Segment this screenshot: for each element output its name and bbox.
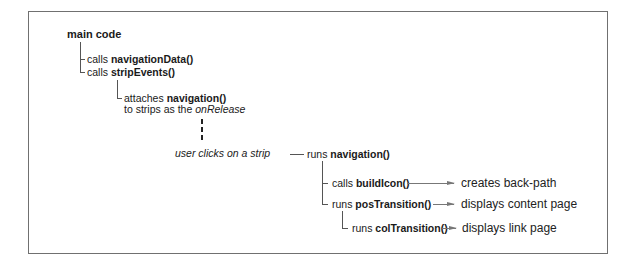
function-name: navigation() — [330, 148, 390, 160]
result-pos-transition: displays content page — [461, 197, 577, 211]
node-user-click: user clicks on a strip — [175, 147, 270, 159]
dash-segment — [201, 119, 203, 124]
tree-branch-attach — [117, 98, 122, 99]
node-col-transition: runs colTransition() — [352, 222, 448, 234]
verb-label: calls — [87, 53, 108, 65]
tree-line-main — [80, 42, 81, 72]
event-label: user clicks on a strip — [175, 147, 270, 159]
verb-label: calls — [332, 177, 353, 189]
result-build-icon: creates back-path — [461, 176, 556, 190]
tree-line-stripevents — [117, 80, 118, 98]
tree-branch-navdata — [80, 59, 85, 60]
dash-segment — [201, 135, 203, 140]
tree-branch-coltransition — [342, 228, 348, 229]
tree-branch-buildicon — [322, 183, 328, 184]
result-col-transition: displays link page — [462, 221, 557, 235]
node-build-icon: calls buildIcon() — [332, 177, 410, 189]
tree-line-postransition — [342, 211, 343, 228]
node-attach-line2: to strips as the onRelease — [124, 103, 245, 115]
verb-label: calls — [87, 66, 108, 78]
dash-segment — [201, 127, 203, 132]
connector-line — [290, 154, 304, 155]
function-name: colTransition() — [375, 222, 447, 234]
arrow-right-icon — [407, 183, 454, 184]
node-strip-events: calls stripEvents() — [87, 66, 175, 78]
tree-branch-stripevents — [80, 72, 85, 73]
node-navigation-data: calls navigationData() — [87, 53, 193, 65]
node-pos-transition: runs posTransition() — [332, 198, 431, 210]
tree-branch-postransition — [322, 204, 328, 205]
root-node: main code — [67, 28, 121, 40]
verb-label: runs — [352, 222, 372, 234]
function-name: navigationData() — [111, 53, 193, 65]
attach-description: to strips as the — [124, 103, 192, 115]
arrow-right-icon — [442, 228, 456, 229]
node-run-navigation: runs navigation() — [307, 148, 390, 160]
event-name: onRelease — [195, 103, 245, 115]
diagram-frame — [28, 11, 608, 254]
function-name: stripEvents() — [111, 66, 175, 78]
verb-label: runs — [332, 198, 352, 210]
arrow-right-icon — [433, 204, 454, 205]
verb-label: runs — [307, 148, 327, 160]
function-name: buildIcon() — [356, 177, 410, 189]
function-name: posTransition() — [355, 198, 431, 210]
